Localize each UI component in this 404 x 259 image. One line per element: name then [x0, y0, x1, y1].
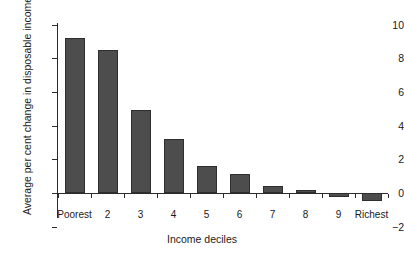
y-tick [52, 92, 57, 93]
y-tick-label: 4 [356, 121, 404, 131]
y-axis-title: Average per cent change in disposable in… [21, 0, 33, 216]
y-tick-label: 2 [356, 154, 404, 164]
x-tick [256, 194, 257, 198]
bar [164, 139, 184, 193]
bar [230, 174, 250, 193]
y-tick [52, 126, 57, 127]
x-tick [190, 194, 191, 198]
bar [296, 190, 316, 193]
x-tick [388, 194, 389, 198]
bar [98, 50, 118, 193]
bar [329, 193, 349, 197]
x-tick [223, 194, 224, 198]
x-axis-title: Income deciles [0, 233, 404, 245]
bar [362, 193, 382, 201]
x-tick [157, 194, 158, 198]
y-tick [52, 159, 57, 160]
x-tick [124, 194, 125, 198]
y-tick [52, 58, 57, 59]
bar [197, 166, 217, 193]
y-tick-label: 10 [356, 20, 404, 30]
y-axis-line [57, 23, 58, 218]
x-tick [322, 194, 323, 198]
bar [65, 38, 85, 193]
y-tick-label: −2 [356, 222, 404, 232]
bar [263, 186, 283, 193]
bar-chart: 1086420−2 Poorest23456789Richest Average… [0, 0, 404, 259]
bar [131, 110, 151, 193]
x-tick-label: Richest [342, 209, 402, 220]
y-tick [52, 25, 57, 26]
x-tick [289, 194, 290, 198]
x-tick [355, 194, 356, 198]
x-tick [91, 194, 92, 198]
y-tick-label: 8 [356, 53, 404, 63]
y-tick-label: 6 [356, 87, 404, 97]
y-tick [52, 227, 57, 228]
y-tick [52, 193, 57, 194]
x-tick [58, 194, 59, 198]
